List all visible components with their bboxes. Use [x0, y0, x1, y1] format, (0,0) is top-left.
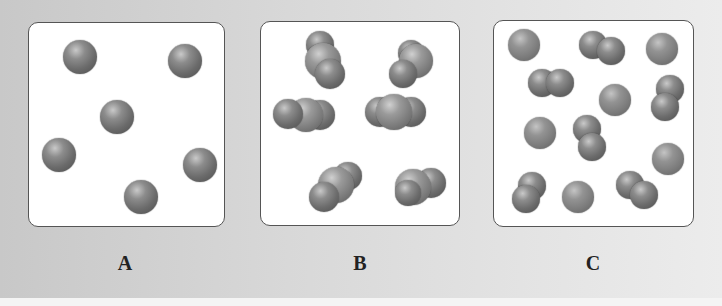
- atom: [508, 29, 540, 61]
- atom: [63, 40, 97, 74]
- molecule-atom: [315, 59, 345, 89]
- panel-a-box: [28, 22, 225, 227]
- atom: [124, 180, 158, 214]
- molecule-atom: [389, 60, 417, 88]
- atom: [168, 44, 202, 78]
- molecule-atom: [512, 185, 540, 213]
- molecule-atom: [546, 69, 574, 97]
- panel-b-box: [260, 21, 460, 226]
- molecule-atom: [376, 94, 412, 130]
- molecule-atom: [309, 182, 339, 212]
- panel-c-box: [493, 20, 694, 227]
- atom: [524, 117, 556, 149]
- molecule-atom: [273, 99, 303, 129]
- molecule-atom: [651, 93, 679, 121]
- panel-c-label: C: [573, 252, 613, 275]
- atom: [599, 84, 631, 116]
- atom: [562, 181, 594, 213]
- panel-b-label: B: [340, 252, 380, 275]
- atom: [42, 138, 76, 172]
- atom: [646, 33, 678, 65]
- molecule-atom: [395, 180, 421, 206]
- atom: [183, 148, 217, 182]
- molecule-atom: [597, 37, 625, 65]
- molecule-atom: [630, 181, 658, 209]
- atom: [100, 100, 134, 134]
- atom: [652, 143, 684, 175]
- molecule-atom: [578, 133, 606, 161]
- panel-a-label: A: [105, 252, 145, 275]
- bottom-strip: [0, 298, 722, 306]
